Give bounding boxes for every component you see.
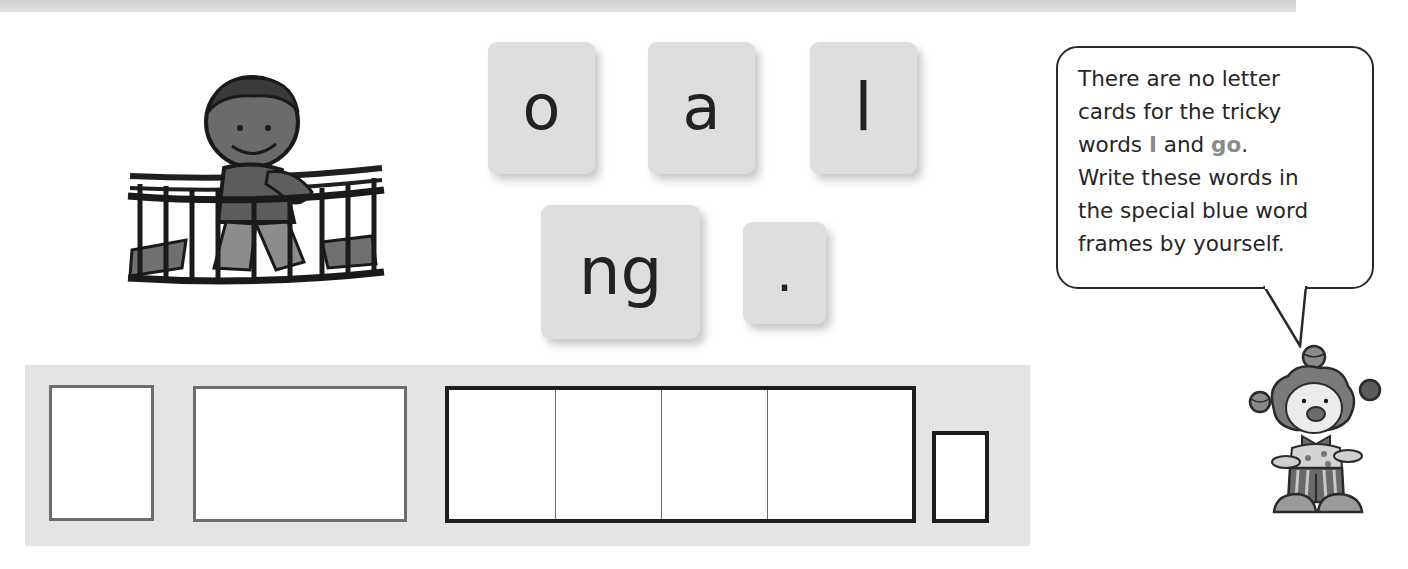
bubble-line: words I and go. [1078, 128, 1374, 161]
speech-bubble-tail [1262, 286, 1312, 348]
bubble-line: cards for the tricky [1078, 95, 1374, 128]
letter-card-full-stop[interactable]: . [743, 222, 826, 324]
letter-card-label: o [523, 77, 561, 139]
letter-card-label: ng [579, 239, 663, 305]
tricky-word-go: go [1211, 132, 1241, 157]
word-frames-strip [25, 365, 1030, 546]
tricky-word-frame-2[interactable] [193, 386, 407, 522]
sound-box-3[interactable] [661, 390, 767, 519]
bubble-text-fragment: . [1241, 132, 1248, 157]
bubble-line: the special blue word [1078, 194, 1374, 227]
sound-box-1[interactable] [449, 390, 555, 519]
letter-card-a[interactable]: a [648, 42, 755, 174]
bubble-text-fragment: and [1157, 132, 1211, 157]
bleed-through-text [830, 278, 842, 318]
letter-card-label: . [776, 247, 793, 299]
bubble-text-fragment: words [1078, 132, 1149, 157]
word-frame-four-sounds [445, 386, 916, 523]
tricky-word-i: I [1149, 132, 1157, 157]
top-band [0, 0, 1296, 12]
letter-card-label: a [683, 77, 721, 139]
boy-crossing-rope-bridge-icon [126, 72, 388, 286]
letter-card-label: l [854, 75, 872, 141]
speech-bubble-text: There are no letter cards for the tricky… [1078, 62, 1374, 260]
speech-bubble: There are no letter cards for the tricky… [1056, 46, 1374, 289]
bubble-line: frames by yourself. [1078, 227, 1374, 260]
bubble-line: Write these words in [1078, 161, 1374, 194]
punctuation-frame[interactable] [932, 431, 989, 523]
juggling-clown-icon [1236, 344, 1386, 516]
sound-box-2[interactable] [555, 390, 661, 519]
letter-card-ng[interactable]: ng [541, 205, 700, 339]
tricky-word-frame-1[interactable] [49, 385, 154, 521]
letter-card-o[interactable]: o [488, 42, 595, 174]
bubble-line: There are no letter [1078, 62, 1374, 95]
sound-box-4[interactable] [767, 390, 912, 519]
letter-card-l[interactable]: l [810, 42, 917, 174]
